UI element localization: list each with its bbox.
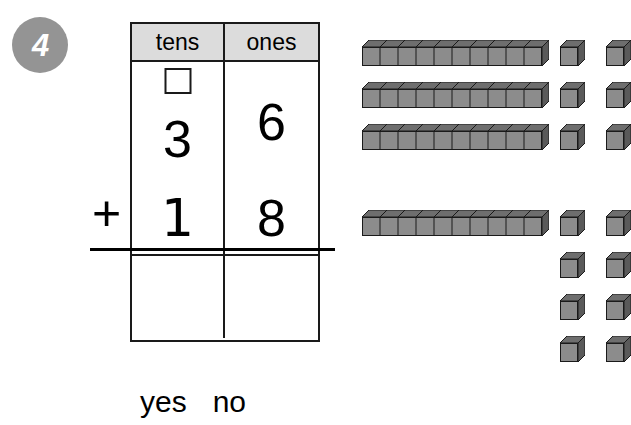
table-row-addend-bottom: 1 8 [132, 182, 318, 254]
digit-addend-bottom-tens: 1 [161, 192, 194, 244]
column-header-ones: ones [225, 24, 318, 60]
problem-number-label: 4 [32, 30, 48, 61]
ones-unit-cube [606, 82, 631, 108]
tens-rod [362, 210, 555, 236]
cell-addend-bottom-tens: 1 [132, 182, 225, 254]
plus-operator: + [92, 188, 121, 238]
ones-unit-cube [560, 294, 585, 320]
ones-cube-row [560, 210, 631, 236]
place-value-table: tens ones 3 6 1 8 [130, 22, 320, 342]
tens-rod [362, 40, 555, 66]
digit-addend-bottom-ones: 8 [257, 192, 286, 244]
cell-sum-ones[interactable] [225, 256, 318, 338]
cell-addend-top-tens[interactable]: 3 [132, 62, 225, 182]
ones-cubes-bottom [560, 210, 631, 378]
cell-addend-bottom-ones: 8 [225, 182, 318, 254]
tens-rods-top [362, 40, 555, 166]
ones-unit-cube [560, 82, 585, 108]
table-header-row: tens ones [132, 24, 318, 62]
ones-unit-cube [560, 210, 585, 236]
ones-cubes-top [560, 40, 631, 166]
cell-addend-top-ones: 6 [225, 62, 318, 182]
answer-choice-yes[interactable]: yes [140, 385, 187, 419]
regroup-carry-box[interactable] [164, 68, 191, 94]
tens-rods-bottom [362, 210, 555, 252]
ones-unit-cube [560, 124, 585, 150]
problem-number-badge: 4 [12, 17, 68, 73]
ones-cube-row [560, 252, 631, 278]
ones-cube-row [560, 40, 631, 66]
cell-sum-tens[interactable] [132, 256, 225, 338]
table-row-addend-top: 3 6 [132, 62, 318, 182]
ones-unit-cube [606, 124, 631, 150]
ones-cube-row [560, 294, 631, 320]
ones-unit-cube [560, 40, 585, 66]
tens-rod [362, 82, 555, 108]
ones-unit-cube [560, 252, 585, 278]
digit-addend-top-ones: 6 [257, 96, 286, 148]
ones-unit-cube [606, 210, 631, 236]
sum-divider-line [90, 248, 335, 251]
ones-unit-cube [606, 40, 631, 66]
column-header-tens: tens [132, 24, 225, 60]
table-row-sum [132, 254, 318, 338]
ones-cube-row [560, 336, 631, 362]
ones-unit-cube [606, 252, 631, 278]
digit-addend-top-tens: 3 [163, 113, 192, 165]
ones-unit-cube [606, 336, 631, 362]
answer-choice-no[interactable]: no [213, 385, 246, 419]
ones-cube-row [560, 124, 631, 150]
ones-cube-row [560, 82, 631, 108]
tens-rod [362, 124, 555, 150]
ones-unit-cube [560, 336, 585, 362]
ones-unit-cube [606, 294, 631, 320]
answer-choices: yes no [140, 385, 246, 419]
